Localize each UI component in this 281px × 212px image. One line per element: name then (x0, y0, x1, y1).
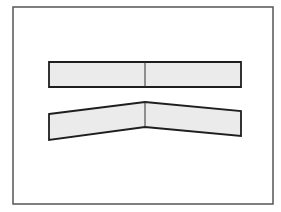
diagram-canvas (0, 0, 281, 212)
flat-strip (49, 62, 241, 87)
bent-strip (49, 102, 241, 140)
